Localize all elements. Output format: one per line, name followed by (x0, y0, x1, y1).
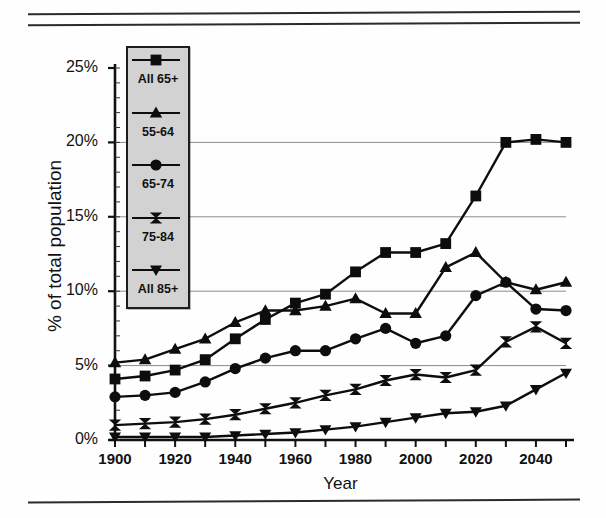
data-point-marker-circle (139, 390, 150, 401)
x-tick-label-1980: 1980 (329, 450, 383, 467)
data-point-marker-circle (230, 363, 241, 374)
legend-label-all-85: All 85+ (128, 282, 188, 296)
y-tick-label-10: 10% (50, 281, 98, 299)
legend-marker-icon (128, 262, 184, 278)
y-tick-label-20: 20% (50, 132, 98, 150)
legend-marker-icon (128, 157, 184, 173)
data-point-marker-circle (530, 303, 541, 314)
series-line (115, 373, 566, 437)
data-point-marker-circle (560, 305, 571, 316)
data-point-marker-square (561, 137, 572, 148)
data-point-marker-triangle-up (560, 276, 572, 287)
legend-symbol-triangle-down-icon (128, 262, 188, 278)
legend-marker-icon (128, 105, 184, 121)
legend-symbol-square-icon (128, 52, 188, 68)
chart-legend: All 65+55-6465-7475-84All 85+ (126, 46, 190, 309)
data-point-marker-circle (470, 290, 481, 301)
y-tick-label-5: 5% (50, 356, 98, 374)
data-point-marker-circle (410, 338, 421, 349)
data-point-marker-circle (500, 277, 511, 288)
data-point-marker-circle (350, 333, 361, 344)
data-point-marker-triangle-down (560, 369, 572, 379)
page-rule-top-outer (28, 11, 580, 16)
series-75-84 (109, 321, 572, 430)
chart-figure: % of total population 0%5%10%15%20%25% 1… (0, 30, 606, 492)
data-point-marker-square (500, 137, 511, 148)
x-tick-label-1900: 1900 (88, 450, 142, 467)
data-point-marker-square (230, 333, 241, 344)
data-point-marker-triangle-up (470, 246, 482, 257)
data-point-marker-circle (320, 345, 331, 356)
legend-label-65-74: 65-74 (128, 177, 188, 191)
legend-label-text: All 85+ (128, 282, 188, 296)
legend-symbol-triangle-up-icon (128, 105, 188, 121)
legend-label-all-65: All 65+ (128, 72, 188, 86)
x-axis-title: Year (241, 474, 441, 494)
data-point-marker-square (320, 289, 331, 300)
data-point-marker-triangle-up (349, 292, 361, 303)
legend-label-55-64: 55-64 (128, 125, 188, 139)
legend-symbol-bowtie-icon (128, 210, 188, 226)
scanned-page: % of total population 0%5%10%15%20%25% 1… (0, 0, 606, 518)
series-line (115, 327, 566, 425)
page-rule-bottom (28, 499, 580, 504)
series-all-85 (109, 369, 572, 443)
y-tick-label-25: 25% (50, 58, 98, 76)
legend-label-text: 65-74 (128, 177, 188, 191)
x-tick-label-2000: 2000 (389, 450, 443, 467)
data-point-marker-square (350, 266, 361, 277)
data-point-marker-circle (290, 345, 301, 356)
x-tick-label-2020: 2020 (449, 450, 503, 467)
x-tick-label-1960: 1960 (268, 450, 322, 467)
data-point-marker-circle (150, 160, 161, 171)
data-point-marker-square (410, 247, 421, 258)
data-point-marker-square (151, 55, 162, 66)
data-point-marker-square (140, 371, 151, 382)
data-point-marker-square (470, 191, 481, 202)
legend-label-75-84: 75-84 (128, 230, 188, 244)
x-tick-label-1920: 1920 (148, 450, 202, 467)
y-tick-label-15: 15% (50, 207, 98, 225)
y-tick-label-0: 0% (50, 430, 98, 448)
legend-label-text: 75-84 (128, 230, 188, 244)
data-point-marker-square (200, 354, 211, 365)
data-point-marker-triangle-up (199, 332, 211, 343)
legend-marker-icon (128, 52, 184, 68)
data-point-marker-circle (200, 376, 211, 387)
data-point-marker-square (380, 247, 391, 258)
data-point-marker-square (531, 134, 542, 145)
data-point-marker-circle (109, 391, 120, 402)
data-point-marker-circle (380, 323, 391, 334)
data-point-marker-square (110, 374, 121, 385)
data-point-marker-circle (260, 353, 271, 364)
data-point-marker-square (440, 238, 451, 249)
legend-label-text: All 65+ (128, 72, 188, 86)
chart-canvas (0, 30, 606, 492)
x-tick-label-1940: 1940 (208, 450, 262, 467)
data-point-marker-square (260, 314, 271, 325)
data-point-marker-circle (170, 387, 181, 398)
legend-symbol-circle-icon (128, 157, 188, 173)
x-tick-label-2040: 2040 (509, 450, 563, 467)
page-rule-top-inner (28, 22, 580, 27)
data-point-marker-square (170, 365, 181, 376)
data-point-marker-circle (440, 330, 451, 341)
plot-area (0, 30, 606, 492)
data-point-marker-bowtie (560, 338, 572, 349)
data-point-marker-triangle-down (530, 385, 542, 395)
legend-marker-icon (128, 210, 184, 226)
data-point-marker-bowtie (530, 321, 542, 332)
legend-label-text: 55-64 (128, 125, 188, 139)
